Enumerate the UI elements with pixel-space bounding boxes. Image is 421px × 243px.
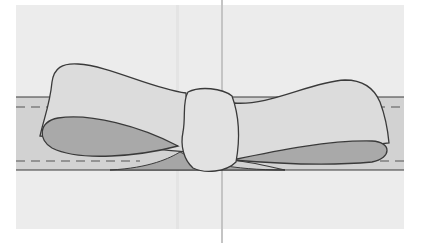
knot xyxy=(182,89,239,172)
bow-illustration xyxy=(0,0,421,243)
